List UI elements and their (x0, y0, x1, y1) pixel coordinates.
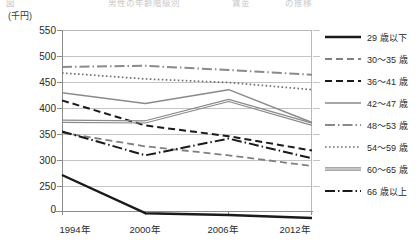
legend-tick (313, 108, 320, 109)
legend-item-7[interactable]: 66 歳以上 (325, 180, 417, 202)
legend-tick (313, 30, 320, 31)
legend-item-4[interactable]: 48～53 歳 (325, 114, 417, 136)
header-fragment-2: 男性の年齢階級別 (108, 0, 180, 8)
legend-item-1[interactable]: 30～35 歳 (325, 48, 417, 70)
legend-label: 54～59 歳 (367, 141, 408, 154)
legend-swatch-icon (325, 97, 361, 109)
series-line-7 (62, 131, 312, 158)
legend-swatch-icon (325, 141, 361, 153)
y-tick-label: 300 (4, 156, 56, 166)
x-axis-line (55, 211, 313, 212)
legend-item-3[interactable]: 42～47 歳 (325, 92, 417, 114)
header-fragment-3: 賃金 (232, 0, 250, 8)
y-tick-label: 350 (4, 130, 56, 140)
x-tick-label: 2012年 (265, 222, 325, 236)
x-tick-label: 2000年 (115, 222, 175, 236)
y-tick-label: 400 (4, 104, 56, 114)
series-line-5 (62, 73, 312, 90)
header-fragment-4: の推移 (285, 0, 312, 8)
legend-label: 66 歳以上 (367, 185, 407, 198)
legend-tick (313, 82, 320, 83)
y-tick-label: 250 (4, 182, 56, 192)
legend-item-5[interactable]: 54～59 歳 (325, 136, 417, 158)
series-line-6 (62, 102, 312, 126)
legend-label: 48～53 歳 (367, 119, 408, 132)
chart-page: 図 男性の年齢階級別 賃金 の推移 (千円) 550 500 450 400 3… (0, 0, 418, 247)
legend-label: 36～41 歳 (367, 75, 408, 88)
series-lines (62, 30, 312, 209)
legend-label: 42～47 歳 (367, 97, 408, 110)
x-tick-mark (311, 211, 312, 215)
legend-label: 29 歳以下 (367, 31, 407, 44)
series-line-4 (62, 66, 312, 75)
legend-tick (313, 160, 320, 161)
plot-area (62, 30, 312, 209)
legend-label: 60～65 歳 (367, 163, 408, 176)
legend-swatch-icon (325, 119, 361, 131)
y-tick-label: 550 (4, 26, 56, 36)
x-tick-mark (62, 211, 63, 215)
y-tick-label: 450 (4, 78, 56, 88)
legend-swatch-icon (325, 163, 361, 175)
legend-item-6[interactable]: 60～65 歳 (325, 158, 417, 180)
y-axis-labels: 550 500 450 400 350 300 250 0 (0, 0, 56, 247)
legend-swatch-icon (325, 185, 361, 197)
legend-swatch-icon (325, 53, 361, 65)
y-tick-label: 0 (4, 205, 56, 215)
legend-label: 30～35 歳 (367, 53, 408, 66)
legend-tick (313, 56, 320, 57)
legend-swatch-icon (325, 75, 361, 87)
legend-tick (313, 186, 320, 187)
legend-tick (313, 134, 320, 135)
x-tick-label: 2006年 (193, 222, 253, 236)
chart-legend: 29 歳以下30～35 歳36～41 歳42～47 歳48～53 歳54～59 … (325, 26, 417, 202)
y-tick-label: 500 (4, 52, 56, 62)
x-tick-label: 1994年 (45, 222, 105, 236)
series-line-3 (62, 90, 312, 123)
legend-swatch-icon (325, 31, 361, 43)
legend-item-2[interactable]: 36～41 歳 (325, 70, 417, 92)
legend-item-0[interactable]: 29 歳以下 (325, 26, 417, 48)
cropped-header-strip: 図 男性の年齢階級別 賃金 の推移 (0, 0, 418, 9)
